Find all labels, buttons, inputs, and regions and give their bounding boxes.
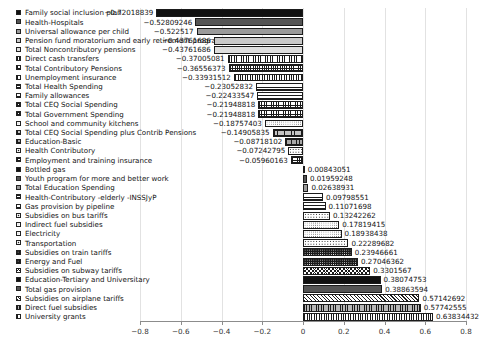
bar <box>228 55 303 63</box>
x-tick-label: 0.6 <box>420 327 431 336</box>
x-tick--0.2 <box>262 321 263 325</box>
legend-swatch-icon <box>16 277 21 282</box>
legend-swatch-icon <box>16 259 21 264</box>
x-tick-0.4 <box>385 321 386 325</box>
bar <box>303 166 305 174</box>
legend-swatch-icon <box>16 314 21 319</box>
bar <box>303 313 433 321</box>
chart-row: University grants0.63834432 <box>0 312 476 322</box>
bar <box>288 147 303 155</box>
bar <box>291 156 303 164</box>
bar <box>234 74 303 82</box>
bar <box>229 64 303 72</box>
bar <box>214 46 303 54</box>
x-tick-0 <box>303 321 304 325</box>
bar <box>303 294 419 302</box>
bar <box>303 276 381 284</box>
bar-value-label: 0.63834432 <box>436 312 479 322</box>
bar <box>303 175 307 183</box>
bar <box>265 120 303 128</box>
bar <box>258 110 303 118</box>
x-tick-0.8 <box>466 321 467 325</box>
category-label: University grants <box>25 312 86 322</box>
x-tick--0.8 <box>140 321 141 325</box>
bar <box>303 184 308 192</box>
bar <box>303 267 370 275</box>
bar <box>303 202 326 210</box>
bar <box>256 83 303 91</box>
bar <box>195 18 303 26</box>
legend-swatch-icon <box>16 222 21 227</box>
x-tick-label: −0.8 <box>131 327 148 336</box>
legend-swatch-icon <box>16 204 21 209</box>
x-tick-0.6 <box>425 321 426 325</box>
legend-swatch-icon <box>16 213 21 218</box>
legend-swatch-icon <box>16 231 21 236</box>
x-tick-label: −0.6 <box>172 327 189 336</box>
x-tick-0.2 <box>344 321 345 325</box>
bar <box>303 193 323 201</box>
bar <box>303 239 348 247</box>
bar <box>303 248 352 256</box>
bar <box>258 101 303 109</box>
bar <box>197 28 303 36</box>
legend-swatch-icon <box>16 185 21 190</box>
legend-swatch-icon <box>16 194 21 199</box>
x-tick-label: −0.2 <box>254 327 271 336</box>
legend-swatch-icon <box>16 240 21 245</box>
legend-swatch-icon <box>16 296 21 301</box>
bar <box>285 138 303 146</box>
x-tick--0.6 <box>181 321 182 325</box>
bar <box>303 221 339 229</box>
x-tick--0.4 <box>222 321 223 325</box>
bar <box>303 285 382 293</box>
bar <box>303 258 358 266</box>
bar <box>303 230 342 238</box>
legend-swatch-icon <box>16 176 21 181</box>
legend-swatch-icon <box>16 268 21 273</box>
bar <box>257 92 303 100</box>
x-tick-label: −0.4 <box>213 327 230 336</box>
legend-swatch-icon <box>16 286 21 291</box>
bar <box>303 304 421 312</box>
x-tick-label: 0.8 <box>460 327 471 336</box>
bar <box>156 9 303 17</box>
x-tick-label: 0.4 <box>379 327 390 336</box>
legend-swatch-icon <box>16 250 21 255</box>
bar <box>214 37 303 45</box>
legend-swatch-icon <box>16 305 21 310</box>
legend-swatch-icon <box>16 167 21 172</box>
x-tick-label: 0 <box>301 327 306 336</box>
bar <box>303 212 330 220</box>
bar <box>273 129 303 137</box>
x-tick-label: 0.2 <box>338 327 349 336</box>
